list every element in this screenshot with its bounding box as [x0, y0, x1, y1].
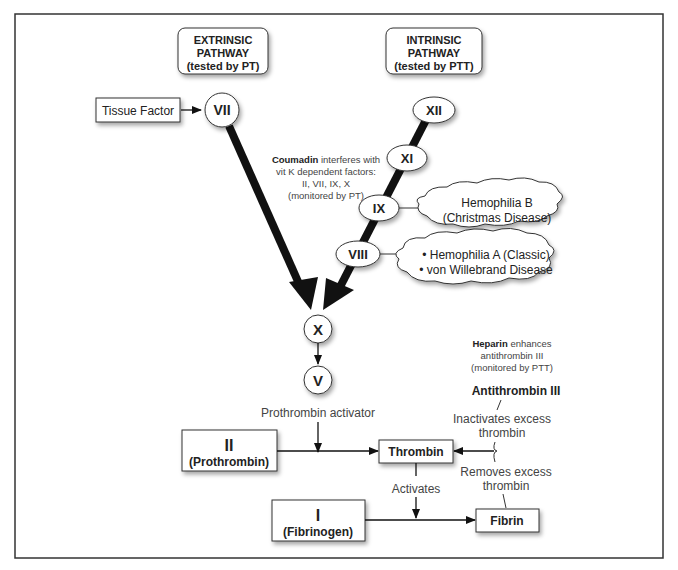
fibrinogen-name: (Fibrinogen)	[283, 525, 353, 539]
inactivates-line2: thrombin	[479, 426, 526, 440]
heparin-line3: (monitored by PTT)	[471, 362, 553, 373]
prothrombin-name: (Prothrombin)	[189, 455, 269, 469]
factor-xii-node: XII	[413, 97, 455, 123]
factor-xi-node: XI	[387, 145, 427, 171]
fibrinogen-box: I (Fibrinogen)	[272, 500, 365, 541]
inactivates-label: Inactivates excess	[453, 412, 551, 426]
von-willebrand-label: • von Willebrand Disease	[419, 263, 553, 277]
antithrombin-label: Antithrombin III	[472, 384, 561, 398]
coumadin-line2: vit K dependent factors:	[276, 166, 376, 177]
factor-x-label: X	[313, 321, 323, 338]
heparin-rest: enhances	[508, 338, 552, 349]
tissue-factor-label: Tissue Factor	[102, 104, 174, 118]
extrinsic-label: EXTRINSIC	[194, 34, 253, 46]
thrombin-label: Thrombin	[388, 445, 443, 459]
coumadin-label: Coumadin	[272, 154, 319, 165]
coumadin-line3: II, VII, IX, X	[302, 178, 351, 189]
svg-text:Heparin enhances: Heparin enhances	[472, 338, 551, 349]
factor-v-label: V	[313, 372, 323, 389]
intrinsic-label: INTRINSIC	[407, 34, 462, 46]
prothrombin-activator-label: Prothrombin activator	[261, 406, 375, 420]
factor-viii-label: VIII	[348, 247, 368, 262]
removes-label: Removes excess	[460, 465, 551, 479]
factor-vii-label: VII	[213, 102, 230, 118]
intrinsic-test-label: (tested by PTT)	[394, 60, 474, 72]
hemophilia-b-label: Hemophilia B	[461, 196, 532, 210]
extrinsic-test-label: (tested by PT)	[187, 60, 260, 72]
hemophilia-a-label: • Hemophilia A (Classic)	[422, 248, 550, 262]
heparin-line2: antithrombin III	[481, 350, 544, 361]
factor-viii-node: VIII	[336, 241, 380, 267]
factor-vii-node: VII	[205, 93, 239, 127]
fibrinogen-numeral: I	[316, 507, 320, 524]
prothrombin-numeral: II	[225, 437, 234, 454]
svg-text:Coumadin interferes with: Coumadin interferes with	[272, 154, 380, 165]
heparin-label: Heparin	[472, 338, 508, 349]
factor-ix-node: IX	[359, 195, 399, 221]
factor-v-node: V	[304, 366, 332, 394]
factor-x-node: X	[304, 315, 332, 343]
factor-ix-label: IX	[373, 201, 386, 216]
fibrin-box: Fibrin	[476, 509, 539, 532]
extrinsic-pathway-box: EXTRINSIC PATHWAY (tested by PT)	[178, 28, 268, 74]
coagulation-cascade-diagram: EXTRINSIC PATHWAY (tested by PT) INTRINS…	[0, 0, 678, 570]
removes-line2: thrombin	[483, 479, 530, 493]
factor-xii-label: XII	[426, 103, 442, 118]
intrinsic-pathway-label: PATHWAY	[408, 47, 461, 59]
prothrombin-box: II (Prothrombin)	[182, 430, 277, 471]
coumadin-rest: interferes with	[318, 154, 380, 165]
christmas-disease-label: (Christmas Disease)	[443, 211, 552, 225]
coumadin-line4: (monitored by PT)	[288, 190, 364, 201]
heparin-note: Heparin enhances antithrombin III (monit…	[471, 338, 553, 373]
activates-label: Activates	[392, 482, 441, 496]
extrinsic-pathway-label: PATHWAY	[197, 47, 250, 59]
tissue-factor-box: Tissue Factor	[96, 98, 180, 122]
thrombin-box: Thrombin	[379, 440, 453, 463]
factor-xi-label: XI	[401, 151, 413, 166]
fibrin-label: Fibrin	[490, 514, 523, 528]
intrinsic-pathway-box: INTRINSIC PATHWAY (tested by PTT)	[386, 28, 482, 74]
